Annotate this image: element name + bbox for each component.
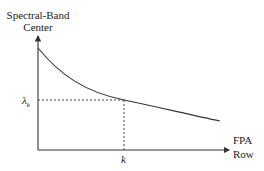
k-label: k [121,153,126,165]
y-axis-label: Spectral-Band Center [4,9,72,33]
lambda-subscript: k [27,101,30,109]
y-axis-label-line2: Center [4,21,72,33]
band-center-curve [38,48,220,121]
x-axis-label-line1: FPA [233,134,254,146]
y-axis-label-line1: Spectral-Band [4,9,72,21]
lambda-k-label: λk [22,94,30,111]
x-axis-label-line2: Row [233,148,254,160]
x-axis-label: FPA Row [233,134,254,160]
